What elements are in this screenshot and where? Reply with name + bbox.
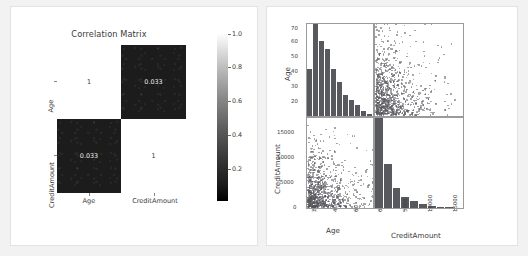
scatter-point — [387, 77, 389, 79]
scatter-point — [408, 94, 410, 96]
scatter-point — [395, 97, 397, 99]
xtick-age-40: 40 — [332, 205, 338, 212]
scatter-point — [343, 169, 345, 171]
scatter-point — [333, 131, 335, 133]
scatter-point — [337, 181, 339, 183]
scatter-point — [334, 135, 336, 137]
scatter-point — [393, 57, 395, 59]
scatter-point — [317, 143, 319, 145]
scatter-point — [360, 205, 362, 207]
scatter-point — [419, 108, 421, 110]
histogram-bar — [367, 114, 373, 116]
ytick-age-30: 30 — [291, 83, 298, 89]
scatter-point — [341, 165, 343, 167]
scatter-point — [419, 98, 421, 100]
scatter-point — [412, 97, 414, 99]
scatter-point — [312, 151, 314, 153]
scatter-point — [384, 83, 386, 85]
scatter-point — [392, 111, 394, 113]
colorbar-tick-4: 0.4 — [232, 131, 242, 139]
scatter-point — [391, 114, 393, 116]
scatter-point — [331, 186, 333, 188]
scatter-point — [383, 113, 385, 115]
scatter-point — [404, 25, 406, 27]
scatter-point — [352, 184, 354, 186]
scatter-point — [318, 204, 320, 206]
scatter-point — [412, 112, 414, 114]
scatter-point — [367, 176, 369, 178]
ytick-credit-5000: 5000 — [280, 179, 294, 185]
figure-root: Correlation Matrix 1 0.033 0.033 1 Age C… — [0, 0, 528, 256]
scatter-point — [358, 176, 360, 178]
scatter-point — [327, 158, 329, 160]
scatter-point — [334, 127, 336, 129]
scatter-point — [310, 138, 312, 140]
scatter-point — [428, 103, 430, 105]
scatter-point — [381, 93, 383, 95]
scatter-point — [401, 93, 403, 95]
scatter-point — [315, 193, 317, 195]
colorbar-tick-1: 1.0 — [232, 30, 242, 38]
histogram-bar — [437, 207, 446, 208]
scatter-point — [400, 73, 402, 75]
scatter-point — [401, 108, 403, 110]
scatter-point — [336, 186, 338, 188]
panel-age-vs-creditamount-scatter — [306, 117, 374, 209]
scatter-point — [332, 196, 334, 198]
scatter-point — [399, 43, 401, 45]
scatter-point — [365, 171, 367, 173]
scatter-point — [422, 90, 424, 92]
yaxis-label-age: Age — [283, 67, 292, 81]
scatter-point — [387, 80, 389, 82]
scatter-point — [327, 189, 329, 191]
scatter-point — [307, 125, 309, 127]
scatter-point — [320, 205, 322, 207]
scatter-point — [313, 149, 315, 151]
scatter-point — [361, 199, 363, 201]
scatter-point — [308, 142, 310, 144]
scatter-point — [395, 95, 397, 97]
correlation-matrix-panel: Correlation Matrix 1 0.033 0.033 1 Age C… — [10, 6, 258, 246]
scatter-point — [411, 86, 413, 88]
scatter-point — [384, 35, 386, 37]
scatter-point — [454, 99, 456, 101]
scatter-point — [421, 65, 423, 67]
scatter-point — [329, 150, 331, 152]
scatter-point — [335, 170, 337, 172]
histogram-bar — [410, 201, 419, 208]
scatter-point — [447, 105, 449, 107]
scatter-point — [327, 179, 329, 181]
scatter-point — [357, 182, 359, 184]
panel-creditamount-vs-age-scatter — [374, 23, 464, 117]
scatter-point — [320, 134, 322, 136]
xaxis-label-creditamount: CreditAmount — [391, 231, 441, 240]
scatter-point — [443, 54, 445, 56]
scatter-point — [399, 68, 401, 70]
scatter-point — [414, 93, 416, 95]
scatter-point — [324, 203, 326, 205]
colorbar-gradient — [217, 33, 228, 201]
scatter-point — [389, 95, 391, 97]
scatter-point — [438, 59, 440, 61]
scatter-point — [437, 45, 439, 47]
scatter-point — [365, 203, 367, 205]
scatter-point — [393, 101, 395, 103]
scatter-point — [347, 200, 349, 202]
scatter-point — [429, 88, 431, 90]
scatter-point — [397, 84, 399, 86]
heatmap-grid: 1 0.033 0.033 1 — [57, 45, 186, 193]
scatter-point — [329, 177, 331, 179]
histogram-bars-age — [307, 24, 373, 116]
scatter-point — [386, 106, 388, 108]
scatter-point — [322, 150, 324, 152]
scatter-point — [336, 201, 338, 203]
scatter-point — [414, 106, 416, 108]
scatter-point — [382, 106, 384, 108]
scatter-point — [341, 162, 343, 164]
scatter-point — [425, 67, 427, 69]
scatter-point — [395, 52, 397, 54]
scatter-point — [428, 94, 430, 96]
scatter-point — [388, 100, 390, 102]
scatter-point — [309, 185, 311, 187]
scatter-point — [397, 93, 399, 95]
